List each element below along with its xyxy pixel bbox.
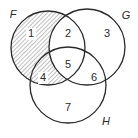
region-label-7: 7 [65,101,71,113]
region-label-1: 1 [28,27,34,39]
set-label-g: G [122,9,131,21]
set-label-h: H [102,115,110,127]
venn-diagram: F G H 1 2 3 4 5 6 7 [0,0,138,138]
set-label-f: F [10,8,18,20]
venn-svg: F G H 1 2 3 4 5 6 7 [0,0,138,138]
region-label-4: 4 [40,71,46,83]
region-label-5: 5 [65,58,71,70]
region-label-2: 2 [65,27,71,39]
region-label-6: 6 [91,71,97,83]
region-label-3: 3 [104,27,110,39]
